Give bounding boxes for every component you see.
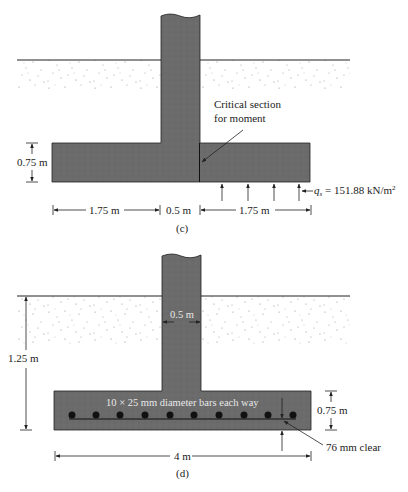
critical-section-label-2: for moment (214, 112, 266, 124)
thickness-label: 0.75 m (17, 156, 48, 168)
column-width-label: 0.5 m (166, 204, 192, 216)
caption-d: (d) (176, 467, 189, 480)
soil-pressure-label: qs = 151.88 kN/m2 (314, 184, 396, 198)
soil-pressure-arrows: qs = 151.88 kN/m2 (222, 184, 396, 201)
clear-cover-label: 76 mm clear (326, 441, 381, 453)
width-dimension: 4 m (55, 450, 311, 462)
thickness-dimension: 0.75 m (317, 391, 348, 430)
column-width-label: 0.5 m (170, 309, 194, 320)
figure-c: Critical section for moment 0.75 m qs = … (17, 14, 396, 235)
figure-d: 0.5 m 1.25 m 10 × 25 mm diameter bars ea… (8, 254, 381, 480)
reinforcement-label: 10 × 25 mm diameter bars each way (106, 397, 259, 408)
caption-c: (c) (176, 222, 189, 235)
width-label: 4 m (174, 450, 191, 462)
horizontal-dimensions: 1.75 m 0.5 m 1.75 m (53, 204, 311, 216)
thickness-label: 0.75 m (317, 404, 348, 416)
depth-label: 1.25 m (8, 352, 39, 364)
right-projection-label: 1.75 m (239, 204, 270, 216)
footing-diagram: Critical section for moment 0.75 m qs = … (0, 0, 408, 492)
left-projection-label: 1.75 m (89, 204, 120, 216)
critical-section-label: Critical section (214, 98, 281, 110)
thickness-dimension: 0.75 m (17, 143, 48, 182)
